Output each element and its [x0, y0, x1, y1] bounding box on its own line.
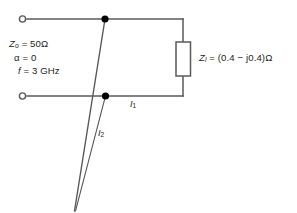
bottom-junction-dot [102, 92, 109, 99]
top-open-terminal [19, 16, 25, 22]
load-impedance-label: Zl = (0.4 − j0.4)Ω [199, 53, 272, 63]
zo-subscript: o [15, 42, 19, 49]
zo-value: 50Ω [30, 38, 48, 49]
top-junction-dot [101, 15, 108, 22]
alpha-value: 0 [31, 52, 36, 63]
frequency-equals: = [24, 65, 30, 76]
frequency-label: f = 3 GHz [18, 66, 60, 76]
characteristic-impedance-label: Zo = 50Ω [9, 39, 48, 49]
frequency-value: 3 GHz [32, 65, 60, 76]
stub-current-label: I2 [98, 128, 104, 138]
zl-equals: = [209, 52, 215, 63]
circuit-diagram: Zo = 50Ω α = 0 f = 3 GHz Zl = (0.4 − j0.… [0, 0, 297, 213]
load-resistor-box [176, 42, 191, 76]
attenuation-label: α = 0 [14, 53, 36, 63]
bottom-open-terminal [19, 93, 25, 99]
schematic-drawing [0, 0, 297, 213]
alpha-symbol: α [14, 52, 20, 63]
main-line-current-label: I1 [130, 99, 136, 109]
i2-subscript: 2 [101, 131, 105, 138]
alpha-equals: = [22, 52, 28, 63]
zl-subscript: l [205, 56, 207, 63]
frequency-symbol: f [18, 65, 21, 76]
zl-value: (0.4 − j0.4)Ω [218, 52, 273, 63]
zo-equals: = [22, 38, 28, 49]
i1-subscript: 1 [133, 102, 137, 109]
